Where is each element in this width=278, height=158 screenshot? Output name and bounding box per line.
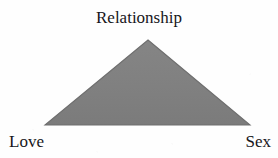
triangle-diagram: Relationship Love Sex	[0, 0, 278, 158]
bottom-right-label-sex: Sex	[246, 133, 272, 150]
bottom-left-label-love: Love	[9, 133, 44, 150]
apex-label-relationship: Relationship	[0, 9, 278, 26]
triangle-polygon	[45, 40, 250, 125]
